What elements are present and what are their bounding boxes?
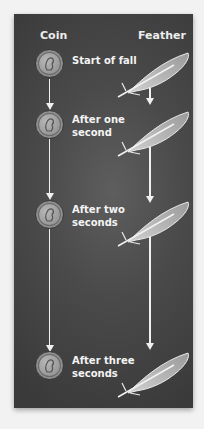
feather-icon bbox=[114, 196, 194, 248]
arrow-down-icon bbox=[146, 98, 154, 105]
arrow-down-icon bbox=[46, 103, 54, 110]
coin-arrow-line-1 bbox=[49, 79, 51, 105]
feather-icon bbox=[114, 106, 194, 158]
feather-icon bbox=[114, 347, 194, 399]
coin-icon bbox=[35, 200, 64, 229]
coin-icon bbox=[35, 110, 64, 139]
coin-arrow-line-3 bbox=[49, 229, 51, 347]
coin-column-header: Coin bbox=[40, 29, 67, 42]
diagram-panel: Coin Feather Start of fall After one sec… bbox=[14, 14, 193, 408]
coin-icon bbox=[35, 49, 64, 78]
arrow-down-icon bbox=[46, 193, 54, 200]
coin-arrow-line-2 bbox=[49, 139, 51, 195]
feather-icon bbox=[114, 47, 194, 99]
feather-column-header: Feather bbox=[138, 29, 186, 42]
coin-icon bbox=[35, 351, 64, 380]
